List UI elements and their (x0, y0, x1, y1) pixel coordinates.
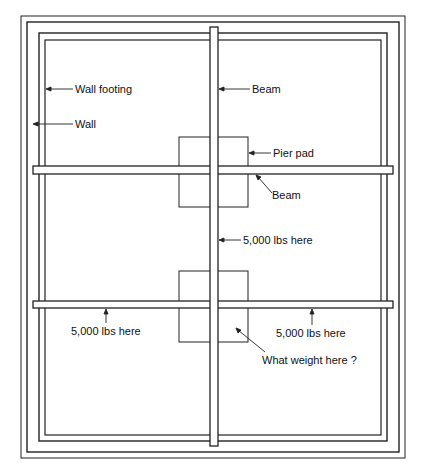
label-beam-horizontal: Beam (272, 189, 301, 201)
arrow-icon (33, 122, 38, 126)
arrow-icon (46, 87, 51, 91)
label-question: What weight here ? (262, 354, 357, 366)
arrow-icon (310, 309, 314, 314)
label-wall: Wall (75, 118, 96, 130)
label-load-center: 5,000 lbs here (243, 234, 313, 246)
label-beam-vertical: Beam (252, 83, 281, 95)
label-wall-footing: Wall footing (75, 83, 132, 95)
arrow-icon (219, 238, 224, 242)
label-load-left: 5,000 lbs here (71, 325, 141, 337)
label-load-right: 5,000 lbs here (276, 327, 346, 339)
arrow-icon (104, 309, 108, 314)
beam-vertical (210, 27, 218, 446)
foundation-diagram (0, 0, 425, 476)
arrow-icon (219, 87, 224, 91)
arrow-icon (249, 151, 254, 155)
label-pier-pad: Pier pad (273, 147, 314, 159)
leader-question (238, 330, 265, 352)
leader-beam-horizontal (258, 177, 272, 193)
